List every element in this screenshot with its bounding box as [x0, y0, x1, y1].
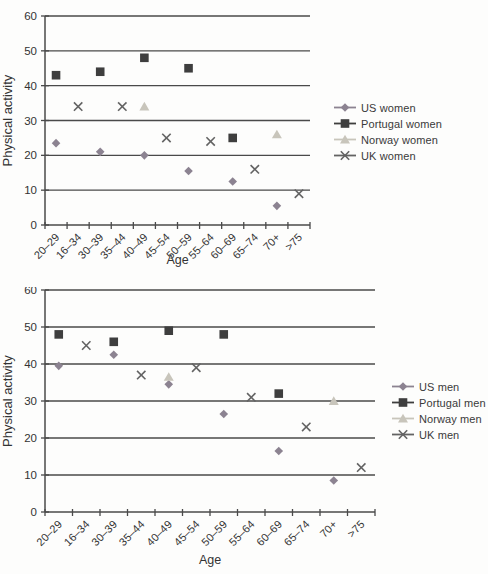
chart-men: 010203040506020–2916–3430–3935–4440–4945…	[0, 287, 488, 574]
x-tick-label: 16–34	[62, 518, 92, 548]
y-tick-label: 30	[24, 115, 37, 127]
point-us-men	[54, 362, 63, 371]
point-portugal-women	[228, 134, 237, 143]
legend-marker-square	[399, 398, 408, 407]
point-us-women	[140, 151, 149, 160]
point-uk-women	[251, 165, 259, 173]
legend-diamond-icon	[392, 381, 414, 392]
y-tick-label: 30	[24, 395, 37, 407]
point-portugal-women	[184, 64, 193, 73]
chart-women: 010203040506020–2916–3430–3935–4440–4945…	[0, 0, 488, 287]
x-tick-label: 65–74	[282, 518, 312, 548]
x-axis-title: Age	[199, 553, 221, 567]
point-us-women	[52, 139, 61, 148]
y-tick-label: 40	[24, 80, 37, 92]
point-portugal-men	[219, 330, 228, 339]
x-tick-label: 55–64	[227, 518, 257, 548]
y-tick-label: 60	[24, 10, 37, 22]
point-uk-men	[357, 463, 365, 471]
y-tick-label: 50	[24, 45, 37, 57]
legend-label: Norway men	[419, 413, 482, 425]
legend-item-us-men: US men	[392, 380, 486, 393]
point-us-men	[219, 410, 228, 419]
point-us-women	[228, 177, 237, 186]
point-portugal-men	[164, 326, 173, 335]
point-us-men	[164, 380, 173, 389]
point-us-men	[329, 476, 338, 485]
y-tick-label: 50	[24, 321, 37, 333]
y-tick-label: 40	[24, 358, 37, 370]
y-tick-label: 20	[24, 149, 37, 161]
y-tick-label: 10	[24, 469, 37, 481]
x-tick-label: 70+	[317, 518, 339, 540]
point-us-men	[274, 447, 283, 456]
legend-x-icon	[392, 429, 414, 440]
legend-marker-diamond	[341, 103, 350, 112]
point-uk-men	[137, 371, 145, 379]
legend-men: US menPortugal menNorway menUK men	[392, 380, 486, 441]
legend-label: Portugal men	[419, 397, 486, 409]
point-us-men	[109, 350, 118, 359]
point-uk-women	[206, 137, 214, 145]
legend-marker-diamond	[399, 382, 408, 391]
x-tick-label: 70+	[261, 231, 283, 253]
legend-item-portugal-women: Portugal women	[334, 117, 442, 130]
y-tick-label: 60	[24, 287, 37, 296]
legend-label: UK women	[361, 150, 416, 162]
x-axis-title: Age	[166, 253, 188, 267]
point-uk-men	[82, 341, 90, 349]
legend-square-icon	[392, 397, 414, 408]
point-uk-men	[192, 364, 200, 372]
legend-label: Portugal women	[361, 118, 442, 130]
point-portugal-women	[96, 67, 105, 76]
legend-item-us-women: US women	[334, 101, 442, 114]
point-norway-men	[164, 372, 174, 381]
point-portugal-women	[52, 71, 61, 80]
point-norway-women	[272, 130, 282, 139]
legend-triangle-icon	[392, 413, 414, 424]
y-tick-label: 0	[31, 219, 37, 231]
legend-label: UK men	[419, 429, 459, 441]
legend-item-uk-women: UK women	[334, 149, 442, 162]
point-portugal-men	[109, 338, 118, 347]
x-tick-label: 65–74	[230, 231, 260, 261]
y-tick-label: 20	[24, 432, 37, 444]
point-portugal-men	[54, 330, 63, 339]
legend-x-icon	[334, 150, 356, 161]
legend-item-norway-men: Norway men	[392, 412, 486, 425]
y-tick-label: 10	[24, 184, 37, 196]
x-tick-label: 60–69	[254, 518, 284, 548]
point-portugal-men	[274, 389, 283, 398]
point-us-women	[184, 167, 193, 176]
point-uk-women	[118, 102, 126, 110]
x-tick-label: 40–49	[144, 518, 174, 548]
x-tick-label: 45–54	[172, 518, 202, 548]
legend-item-uk-men: UK men	[392, 428, 486, 441]
legend-square-icon	[334, 118, 356, 129]
point-uk-women	[162, 134, 170, 142]
y-axis-title: Physical activity	[0, 355, 15, 447]
point-us-women	[273, 202, 282, 211]
point-uk-men	[302, 423, 310, 431]
legend-diamond-icon	[334, 102, 356, 113]
legend-label: Norway women	[361, 134, 438, 146]
y-axis-title: Physical activity	[0, 74, 15, 166]
y-tick-label: 0	[31, 506, 37, 518]
legend-item-norway-women: Norway women	[334, 133, 442, 146]
point-uk-men	[247, 393, 255, 401]
x-tick-label: 50–59	[199, 518, 229, 548]
x-tick-label: >75	[345, 518, 367, 540]
point-norway-women	[139, 102, 149, 111]
x-tick-label: 20–29	[34, 518, 64, 548]
legend-label: US men	[419, 381, 459, 393]
point-portugal-women	[140, 54, 149, 63]
legend-label: US women	[361, 102, 416, 114]
legend-triangle-icon	[334, 134, 356, 145]
legend-women: US womenPortugal womenNorway womenUK wom…	[334, 101, 442, 162]
legend-marker-square	[341, 119, 350, 128]
point-uk-women	[74, 102, 82, 110]
x-tick-label: >75	[283, 231, 305, 253]
x-tick-label: 35–44	[117, 518, 147, 548]
legend-item-portugal-men: Portugal men	[392, 396, 486, 409]
x-tick-label: 30–39	[89, 518, 119, 548]
